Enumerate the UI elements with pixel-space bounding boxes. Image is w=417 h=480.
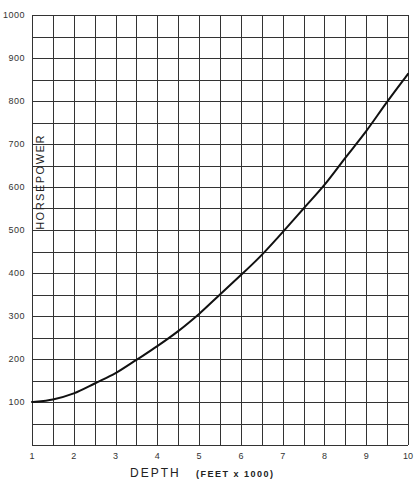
x-axis-label: DEPTH	[130, 466, 181, 480]
y-tick-label: 500	[8, 225, 25, 235]
y-tick-label: 100	[8, 397, 25, 407]
horsepower-depth-chart: 1002003004005006007008009001000 12345678…	[0, 0, 417, 480]
chart-grid	[32, 15, 409, 446]
y-tick-label: 1000	[3, 10, 25, 20]
y-tick-label: 800	[8, 96, 25, 106]
y-tick-label: 700	[8, 139, 25, 149]
y-axis-label: HORSEPOWER	[34, 134, 46, 230]
x-axis-ticks: 12345678910	[29, 451, 413, 461]
y-tick-label: 300	[8, 311, 25, 321]
y-tick-label: 600	[8, 182, 25, 192]
x-tick-label: 2	[71, 451, 76, 461]
x-axis-unit-label: (FEET x 1000)	[196, 469, 275, 479]
x-tick-label: 5	[197, 451, 202, 461]
x-tick-label: 6	[238, 451, 243, 461]
x-tick-label: 4	[155, 451, 160, 461]
x-tick-label: 10	[403, 451, 413, 461]
y-tick-label: 200	[8, 354, 25, 364]
x-tick-label: 9	[364, 451, 369, 461]
x-tick-label: 8	[322, 451, 327, 461]
y-tick-label: 400	[8, 268, 25, 278]
y-axis-ticks: 1002003004005006007008009001000	[3, 10, 25, 407]
x-tick-label: 3	[113, 451, 118, 461]
x-tick-label: 1	[29, 451, 34, 461]
y-tick-label: 900	[8, 53, 25, 63]
x-tick-label: 7	[280, 451, 285, 461]
